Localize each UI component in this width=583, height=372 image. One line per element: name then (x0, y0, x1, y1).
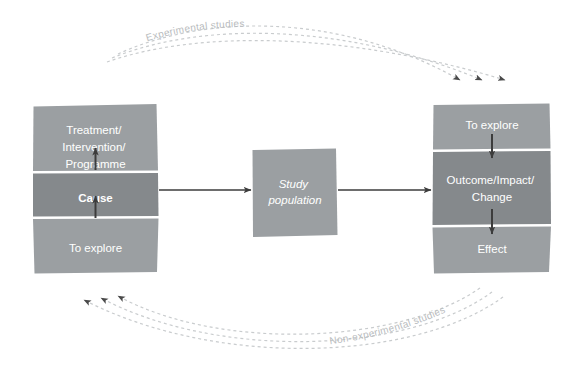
study-population: Study population (253, 149, 338, 238)
experimental-arc-3 (107, 41, 505, 80)
non-experimental-arcs (84, 288, 503, 348)
band-study-population (253, 149, 338, 238)
experimental-arc-2 (112, 33, 482, 80)
experimental-studies-label: Experimental studies (145, 18, 245, 43)
causal-pathway-diagram: Treatment/ Intervention/ Programme Cause… (0, 0, 583, 372)
cause-column: Treatment/ Intervention/ Programme Cause… (33, 104, 159, 274)
non-experimental-studies-label: Non-experimental studies (329, 304, 447, 346)
band-to-explore-left-label: To explore (69, 242, 122, 254)
band-effect-label: Effect (477, 243, 507, 255)
non-experimental-arc-3 (84, 297, 503, 348)
effect-column: To explore Outcome/Impact/ Change Effect (433, 104, 552, 274)
band-to-explore-right-label: To explore (465, 119, 518, 131)
diagram-canvas: Treatment/ Intervention/ Programme Cause… (0, 0, 583, 372)
